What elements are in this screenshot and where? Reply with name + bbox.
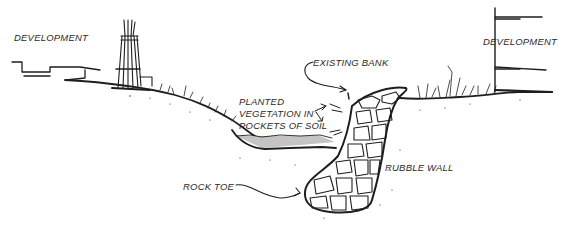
label-rubble-wall: RUBBLE WALL [385, 162, 454, 174]
right-bank-profile [400, 92, 552, 99]
label-planted-vegetation: PLANTED VEGETATION IN POCKETS OF SOIL [239, 96, 327, 132]
right-development-structure [495, 8, 552, 92]
label-development-right: DEVELOPMENT [483, 36, 557, 48]
label-planted-line-2: VEGETATION IN [239, 108, 327, 120]
label-development-left: DEVELOPMENT [14, 32, 88, 44]
left-development-structure [12, 62, 100, 80]
label-planted-line-1: PLANTED [239, 96, 327, 108]
label-planted-line-3: POCKETS OF SOIL [239, 120, 327, 132]
label-existing-bank: EXISTING BANK [313, 57, 388, 69]
bank-grass-right [418, 66, 496, 98]
tree-icon [112, 20, 152, 90]
rock-toe-arrow [236, 185, 300, 198]
label-rock-toe: ROCK TOE [183, 181, 234, 193]
existing-bank-marker [348, 93, 349, 99]
